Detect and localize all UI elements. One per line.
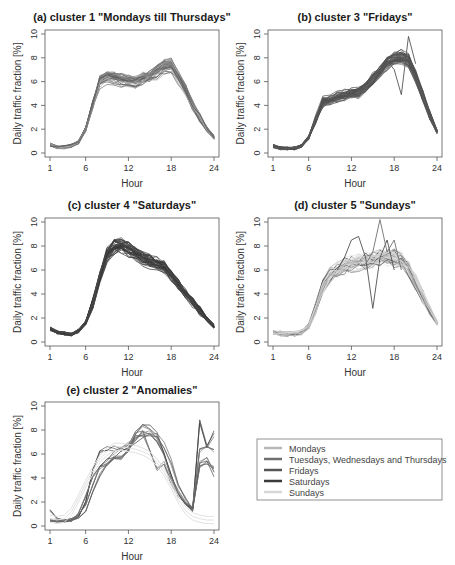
svg-text:1: 1 [47, 536, 52, 546]
y-axis: 0246810Daily traffic fraction [%] [12, 401, 45, 529]
figure: (a) cluster 1 "Mondays till Thursdays"02… [0, 0, 455, 565]
panel-title: (e) cluster 2 "Anomalies" [67, 384, 198, 396]
x-axis-label: Hour [344, 367, 366, 378]
svg-text:24: 24 [209, 352, 219, 362]
plot-frame [45, 30, 219, 157]
svg-text:24: 24 [209, 163, 219, 173]
svg-text:18: 18 [166, 352, 176, 362]
panel-e-anomalies: (e) cluster 2 "Anomalies"0246810Daily tr… [12, 384, 219, 562]
svg-text:10: 10 [29, 29, 39, 39]
series-lines [50, 420, 214, 524]
svg-text:4: 4 [252, 291, 262, 296]
legend-label: Fridays [289, 466, 319, 476]
y-axis-label: Daily traffic fraction [%] [235, 231, 246, 333]
svg-text:8: 8 [252, 243, 262, 248]
y-axis-label: Daily traffic fraction [%] [12, 415, 23, 517]
legend-item: Tuesdays, Wednesdays and Thursdays [264, 455, 447, 465]
svg-text:6: 6 [29, 79, 39, 84]
svg-text:4: 4 [29, 103, 39, 108]
svg-text:0: 0 [29, 150, 39, 155]
plot-frame [45, 218, 219, 346]
svg-text:18: 18 [166, 163, 176, 173]
svg-text:12: 12 [123, 163, 133, 173]
series-lines [273, 36, 437, 150]
svg-text:18: 18 [389, 352, 399, 362]
x-axis-label: Hour [121, 178, 143, 189]
svg-text:6: 6 [83, 536, 88, 546]
svg-text:6: 6 [306, 352, 311, 362]
svg-text:6: 6 [252, 267, 262, 272]
svg-text:6: 6 [83, 352, 88, 362]
legend: MondaysTuesdays, Wednesdays and Thursday… [257, 439, 447, 500]
legend-label: Tuesdays, Wednesdays and Thursdays [289, 455, 447, 465]
svg-text:24: 24 [432, 163, 442, 173]
panel-title: (d) cluster 5 "Sundays" [294, 199, 416, 211]
x-axis: 16121824Hour [270, 346, 442, 378]
svg-text:0: 0 [29, 523, 39, 528]
svg-text:18: 18 [166, 536, 176, 546]
y-axis: 0246810Daily traffic fraction [%] [235, 217, 268, 345]
svg-text:8: 8 [29, 243, 39, 248]
svg-text:12: 12 [123, 352, 133, 362]
svg-text:0: 0 [29, 339, 39, 344]
svg-text:4: 4 [29, 475, 39, 480]
svg-text:4: 4 [252, 103, 262, 108]
x-axis: 16121824Hour [47, 157, 219, 189]
svg-text:10: 10 [29, 401, 39, 411]
panel-title: (a) cluster 1 "Mondays till Thursdays" [33, 11, 230, 23]
panel-d-sundays: (d) cluster 5 "Sundays"0246810Daily traf… [235, 199, 442, 378]
svg-text:2: 2 [252, 127, 262, 132]
svg-text:10: 10 [252, 29, 262, 39]
svg-text:10: 10 [29, 217, 39, 227]
series-lines [50, 238, 214, 337]
svg-text:6: 6 [83, 163, 88, 173]
legend-label: Saturdays [289, 477, 330, 487]
panel-b-fridays: (b) cluster 3 "Fridays"0246810Daily traf… [235, 11, 442, 189]
legend-frame [257, 439, 442, 500]
x-axis: 16121824Hour [270, 157, 442, 189]
svg-text:8: 8 [29, 55, 39, 60]
legend-label: Sundays [289, 488, 325, 498]
svg-text:8: 8 [29, 427, 39, 432]
y-axis: 0246810Daily traffic fraction [%] [235, 29, 268, 156]
svg-text:2: 2 [29, 127, 39, 132]
svg-text:6: 6 [29, 451, 39, 456]
y-axis-label: Daily traffic fraction [%] [235, 42, 246, 144]
x-axis-label: Hour [121, 367, 143, 378]
series-lines [50, 58, 214, 149]
svg-text:8: 8 [252, 55, 262, 60]
svg-text:18: 18 [389, 163, 399, 173]
panel-title: (c) cluster 4 "Saturdays" [68, 199, 196, 211]
svg-text:6: 6 [29, 267, 39, 272]
panel-title: (b) cluster 3 "Fridays" [298, 11, 413, 23]
svg-text:1: 1 [270, 163, 275, 173]
svg-text:6: 6 [306, 163, 311, 173]
x-axis-label: Hour [121, 551, 143, 562]
svg-text:10: 10 [252, 217, 262, 227]
svg-text:24: 24 [432, 352, 442, 362]
svg-text:4: 4 [29, 291, 39, 296]
svg-text:12: 12 [123, 536, 133, 546]
panel-c-saturdays: (c) cluster 4 "Saturdays"0246810Daily tr… [12, 199, 219, 378]
svg-text:2: 2 [252, 315, 262, 320]
svg-text:12: 12 [346, 352, 356, 362]
svg-text:1: 1 [47, 163, 52, 173]
series-lines [273, 220, 437, 337]
svg-text:2: 2 [29, 315, 39, 320]
svg-text:6: 6 [252, 79, 262, 84]
x-axis: 16121824Hour [47, 346, 219, 378]
y-axis-label: Daily traffic fraction [%] [12, 231, 23, 333]
x-axis: 16121824Hour [47, 530, 219, 562]
svg-text:1: 1 [270, 352, 275, 362]
panel-a-mondays-thursdays: (a) cluster 1 "Mondays till Thursdays"02… [12, 11, 231, 189]
svg-text:1: 1 [47, 352, 52, 362]
y-axis-label: Daily traffic fraction [%] [12, 42, 23, 144]
legend-label: Mondays [289, 444, 326, 454]
svg-text:2: 2 [29, 499, 39, 504]
svg-text:0: 0 [252, 339, 262, 344]
x-axis-label: Hour [344, 178, 366, 189]
y-axis: 0246810Daily traffic fraction [%] [12, 29, 45, 156]
svg-text:24: 24 [209, 536, 219, 546]
svg-text:12: 12 [346, 163, 356, 173]
y-axis: 0246810Daily traffic fraction [%] [12, 217, 45, 345]
